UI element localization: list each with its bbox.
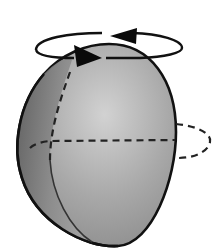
arrowhead-left-icon xyxy=(110,28,137,44)
equator-loop-dashed xyxy=(176,124,210,158)
spheroid-rotation-diagram xyxy=(0,0,222,249)
diagram-canvas xyxy=(0,0,222,249)
